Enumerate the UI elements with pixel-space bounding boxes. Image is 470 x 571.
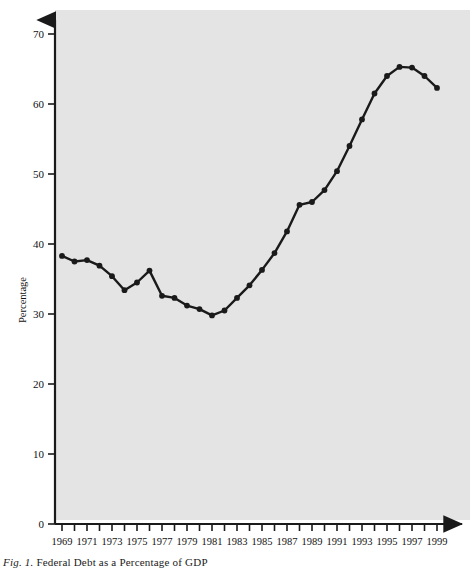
- data-point: 1999: 62.3%: [434, 85, 440, 91]
- data-point: 1983: 32.3%: [234, 295, 240, 301]
- x-tick-label: 1975: [127, 536, 148, 547]
- data-point: 1988: 45.6%: [297, 202, 303, 208]
- x-tick-label: 1991: [327, 536, 348, 547]
- x-tick-label: 1993: [352, 536, 373, 547]
- data-point: 1996: 65.3%: [397, 64, 403, 70]
- data-point: 1990: 47.7%: [322, 187, 328, 193]
- caption-lead: Fig. 1.: [3, 556, 33, 568]
- data-point: 1969: 38.3%: [59, 253, 65, 259]
- data-point: 1985: 36.3%: [259, 267, 265, 273]
- y-tick-label: 30: [33, 308, 45, 320]
- caption-rest: Federal Debt as a Percentage of GDP: [36, 556, 207, 568]
- data-point: 1976: 36.2%: [147, 268, 153, 274]
- x-tick-label: 1973: [102, 536, 123, 547]
- data-point: 1973: 35.4%: [109, 273, 115, 279]
- data-point: 1997: 65.2%: [409, 65, 415, 71]
- x-tick-label: 1989: [302, 536, 323, 547]
- y-tick-label: 50: [33, 168, 45, 180]
- x-tick-label: 1981: [202, 536, 223, 547]
- data-point: 1984: 34.1%: [247, 282, 253, 288]
- data-series-federal-debt: 1969: 38.3%1970: 37.5%1971: 37.7%1972: 3…: [59, 64, 440, 318]
- data-point: 1982: 30.5%: [222, 308, 228, 314]
- data-point: 1978: 32.3%: [172, 295, 178, 301]
- data-point: 1970: 37.5%: [72, 259, 78, 265]
- line-chart: 0 10 20 30 40 50 60 70 Percentage 196919…: [0, 0, 470, 571]
- data-point: 1992: 54%: [347, 143, 353, 149]
- y-tick-label: 20: [33, 378, 45, 390]
- x-tick-label: 1999: [427, 536, 448, 547]
- y-tick-label: 0: [39, 518, 45, 530]
- data-point: 1991: 50.4%: [334, 168, 340, 174]
- series-line: [62, 67, 437, 316]
- data-point: 1979: 31.2%: [184, 303, 190, 309]
- data-point: 1989: 46%: [309, 199, 315, 205]
- x-axis: 1969197119731975197719791981198319851987…: [52, 524, 463, 547]
- x-tick-label: 1995: [377, 536, 398, 547]
- x-tick-label: 1987: [277, 536, 298, 547]
- data-point: 1994: 61.5%: [372, 91, 378, 97]
- y-tick-labels: 0 10 20 30 40 50 60 70: [33, 28, 45, 530]
- x-tick-label: 1977: [152, 536, 173, 547]
- data-point: 1993: 57.8%: [359, 117, 365, 123]
- figure-caption: Fig. 1. Federal Debt as a Percentage of …: [3, 556, 208, 568]
- y-axis-title: Percentage: [17, 277, 28, 323]
- x-tick-label: 1969: [52, 536, 73, 547]
- y-axis: 0 10 20 30 40 50 60 70 Percentage: [17, 20, 55, 530]
- y-tick-label: 70: [33, 28, 45, 40]
- data-point: 1971: 37.7%: [84, 257, 90, 263]
- y-tick-label: 40: [33, 238, 45, 250]
- data-point: 1987: 41.8%: [284, 229, 290, 235]
- x-tick-label: 1979: [177, 536, 198, 547]
- data-point: 1995: 64%: [384, 73, 390, 79]
- data-point: 1975: 34.5%: [134, 280, 140, 286]
- x-tick-label: 1997: [402, 536, 423, 547]
- data-point: 1998: 64%: [422, 73, 428, 79]
- data-point: 1986: 38.7%: [272, 250, 278, 256]
- x-tick-label: 1983: [227, 536, 248, 547]
- figure-container: 0 10 20 30 40 50 60 70 Percentage 196919…: [0, 0, 470, 571]
- y-tick-label: 60: [33, 98, 45, 110]
- x-tick-label: 1971: [77, 536, 98, 547]
- data-point: 1972: 36.9%: [97, 263, 103, 269]
- data-point: 1977: 32.6%: [159, 293, 165, 299]
- data-point: 1974: 33.4%: [122, 287, 128, 293]
- data-point: 1981: 29.8%: [209, 313, 215, 319]
- x-tick-label: 1985: [252, 536, 273, 547]
- x-tick-labels: 1969197119731975197719791981198319851987…: [52, 536, 448, 547]
- data-point: 1980: 30.7%: [197, 306, 203, 312]
- y-tick-label: 10: [33, 448, 45, 460]
